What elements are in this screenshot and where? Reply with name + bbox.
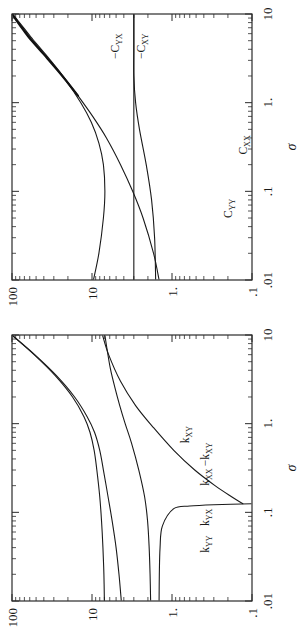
x-tick-label: .1 <box>260 507 275 517</box>
chart-panel-stiffness: .01.11.10.11.10100σkYYkYXkXX−kXYkXY <box>0 321 306 641</box>
y-tick-label: .1 <box>245 287 260 297</box>
x-tick-label: 1. <box>260 419 275 429</box>
x-tick-label: 1. <box>260 98 275 108</box>
curve-label: kYY <box>199 535 214 553</box>
curve-label: kXY <box>179 426 194 444</box>
y-tick-label: 100 <box>5 287 20 307</box>
x-tick-label: 10 <box>260 329 275 342</box>
curve-group <box>12 335 252 601</box>
figure-page: .01.11.10.11.10100σkYYkYXkXX−kXYkXY .01.… <box>0 0 306 641</box>
curve-label: kYX <box>199 509 214 527</box>
stiffness-plot-svg: .01.11.10.11.10100σkYYkYXkXX−kXYkXY <box>0 321 306 641</box>
plot-frame <box>12 335 252 601</box>
curve-label: CXX <box>237 135 252 154</box>
caption-strip <box>294 0 306 641</box>
y-tick-label: .1 <box>245 608 260 618</box>
damping-plot-svg: .01.11.10.11.10100σCYYCXX−CYX−CXY <box>0 0 306 320</box>
series-curve-k-yy <box>12 335 121 601</box>
curve-label: CYY <box>222 199 237 218</box>
x-tick-label: 10 <box>260 8 275 21</box>
series-curve-c-yy <box>12 14 105 280</box>
y-tick-label: 1. <box>165 287 180 297</box>
y-tick-label: 100 <box>5 608 20 628</box>
curve-label: −CYX <box>109 33 124 59</box>
y-tick-label: 10 <box>85 608 100 621</box>
series-curve-k-yx <box>12 335 105 601</box>
curve-label: −kXY <box>199 442 214 466</box>
rotated-figure-wrapper: .01.11.10.11.10100σkYYkYXkXX−kXYkXY .01.… <box>0 0 306 641</box>
figure-row: .01.11.10.11.10100σkYYkYXkXX−kXYkXY .01.… <box>0 0 306 641</box>
x-tick-label: .01 <box>260 593 275 609</box>
y-tick-label: 1. <box>165 608 180 618</box>
plot-frame <box>12 14 252 280</box>
x-tick-label: .1 <box>260 186 275 196</box>
chart-panel-damping: .01.11.10.11.10100σCYYCXX−CYX−CXY <box>0 0 306 320</box>
x-tick-label: .01 <box>260 272 275 288</box>
curve-label: −CXY <box>135 33 150 59</box>
y-tick-label: 10 <box>85 287 100 300</box>
series-curve-k-xx <box>105 335 151 601</box>
